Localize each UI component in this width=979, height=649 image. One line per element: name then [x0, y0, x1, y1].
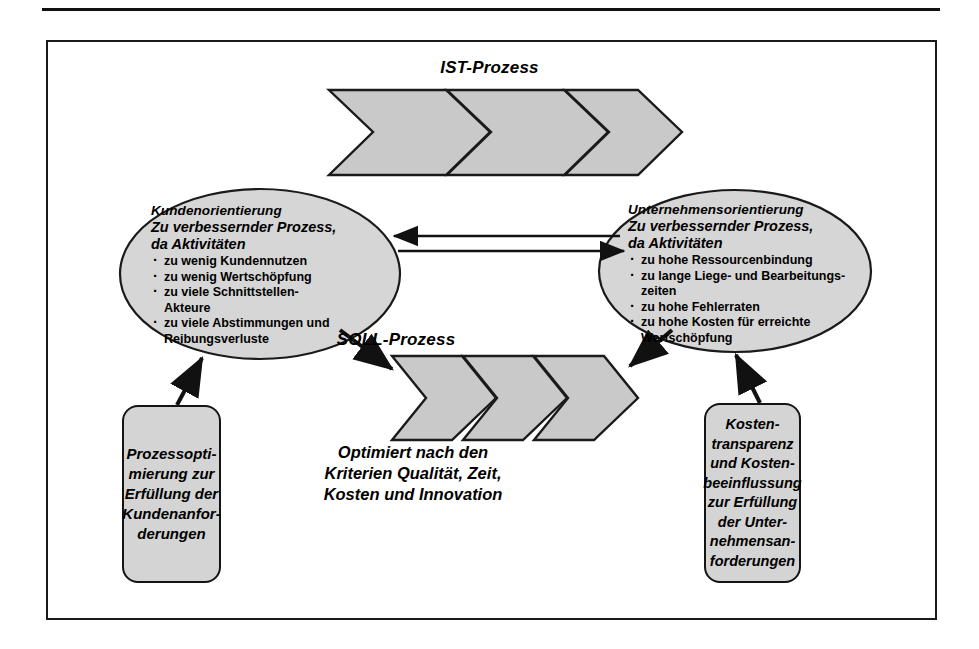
- list-item: zu hohe Kosten für erreichteWertschöpfun…: [628, 315, 890, 346]
- list-item: zu wenig Kundennutzen: [151, 254, 401, 270]
- left-ellipse-content: Kundenorientierung Zu verbessernder Proz…: [151, 203, 401, 347]
- arrow-right-box-to-right-ellipse: [736, 355, 760, 403]
- list-item: zu hohe Ressourcenbindung: [628, 253, 890, 269]
- left-ellipse-subheading: Zu verbessernder Prozess,da Aktivitäten: [151, 219, 401, 253]
- list-item: zu viele Schnittstellen-Akteure: [151, 285, 401, 316]
- soll-prozess-chevrons: [392, 356, 638, 440]
- left-goal-box: Prozessopti-mierung zurErfüllung derKund…: [122, 405, 221, 583]
- list-item: zu wenig Wertschöpfung: [151, 270, 401, 286]
- arrow-left-box-to-left-ellipse: [177, 358, 202, 405]
- ist-prozess-label: IST-Prozess: [0, 58, 979, 78]
- left-ellipse-bullets: zu wenig Kundennutzen zu wenig Wertschöp…: [151, 254, 401, 347]
- list-item: zu hohe Fehlerraten: [628, 300, 890, 316]
- list-item: zu viele Abstimmungen undReibungsverlust…: [151, 316, 401, 347]
- right-goal-box: Kosten-transparenzund Kosten-beeinflussu…: [704, 403, 801, 583]
- soll-prozess-caption: Optimiert nach denKriterien Qualität, Ze…: [258, 442, 568, 505]
- right-ellipse-heading: Unternehmensorientierung: [628, 202, 890, 218]
- right-ellipse-bullets: zu hohe Ressourcenbindung zu lange Liege…: [628, 253, 890, 346]
- diagram-canvas: IST-Prozess SOLL-Prozess Kundenorientier…: [0, 0, 979, 649]
- bidirectional-connector: [394, 236, 624, 251]
- right-ellipse-content: Unternehmensorientierung Zu verbessernde…: [628, 202, 890, 346]
- ist-prozess-chevrons: [329, 90, 682, 175]
- right-ellipse-subheading: Zu verbessernder Prozess,da Aktivitäten: [628, 218, 890, 252]
- left-ellipse-heading: Kundenorientierung: [151, 203, 401, 219]
- left-goal-box-text: Prozessopti-mierung zurErfüllung derKund…: [122, 444, 220, 544]
- right-goal-box-text: Kosten-transparenzund Kosten-beeinflussu…: [703, 415, 801, 571]
- list-item: zu lange Liege- und Bearbeitungs-zeiten: [628, 269, 890, 300]
